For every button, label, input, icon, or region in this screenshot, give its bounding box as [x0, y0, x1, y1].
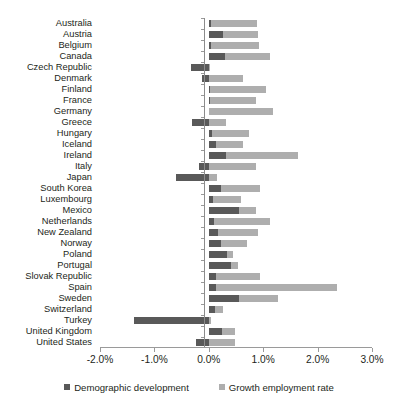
y-axis-tick	[201, 216, 204, 217]
bar-row	[100, 326, 372, 337]
category-label: Switzerland	[0, 304, 96, 315]
bar-segment-demographic	[209, 141, 217, 148]
bar-row	[100, 227, 372, 238]
zero-axis-line	[204, 18, 205, 348]
bar-segment-employment	[209, 108, 273, 115]
bar-segment-employment	[216, 284, 337, 291]
bar-segment-employment	[218, 229, 258, 236]
y-axis-tick	[201, 150, 204, 151]
bar-row	[100, 18, 372, 29]
y-axis-tick	[201, 172, 204, 173]
bar-segment-demographic	[209, 185, 222, 192]
bar-row	[100, 40, 372, 51]
bar-row	[100, 106, 372, 117]
x-axis-tick	[372, 348, 373, 352]
bar-segment-employment	[210, 86, 266, 93]
category-label: Portugal	[0, 260, 96, 271]
bar-segment-demographic	[209, 240, 221, 247]
y-axis-category-labels: AustraliaAustriaBelgiumCanadaCzech Repub…	[0, 18, 96, 348]
y-axis-tick	[201, 227, 204, 228]
category-label: Australia	[0, 18, 96, 29]
x-axis-tick	[100, 348, 101, 352]
bar-row	[100, 84, 372, 95]
y-axis-tick	[201, 73, 204, 74]
x-axis-tick-label: 0.0%	[179, 353, 239, 366]
bar-row	[100, 183, 372, 194]
bar-segment-demographic	[209, 31, 224, 38]
bar-segment-employment	[215, 306, 223, 313]
bar-row	[100, 271, 372, 282]
legend-label: Growth employment rate	[229, 382, 334, 393]
category-label: Germany	[0, 106, 96, 117]
category-label: Slovak Republic	[0, 271, 96, 282]
category-label: Hungary	[0, 128, 96, 139]
bar-segment-employment	[222, 328, 235, 335]
category-label: South Korea	[0, 183, 96, 194]
y-axis-tick	[201, 62, 204, 63]
x-axis-tick-label: -1.0%	[124, 353, 184, 366]
bar-segment-employment	[214, 218, 270, 225]
bar-row	[100, 95, 372, 106]
category-label: Poland	[0, 249, 96, 260]
category-label: Luxembourg	[0, 194, 96, 205]
x-axis-tick-labels: -2.0%-1.0%0.0%1.0%2.0%3.0%	[0, 353, 398, 367]
bar-row	[100, 62, 372, 73]
bar-segment-employment	[216, 141, 242, 148]
y-axis-tick	[201, 282, 204, 283]
bar-segment-demographic	[191, 64, 208, 71]
bar-row	[100, 260, 372, 271]
y-axis-tick	[201, 29, 204, 30]
x-axis-tick	[318, 348, 319, 352]
y-axis-tick	[201, 161, 204, 162]
y-axis-tick	[201, 293, 204, 294]
bar-segment-employment	[221, 240, 247, 247]
y-axis-tick	[201, 183, 204, 184]
stacked-bar-chart: AustraliaAustriaBelgiumCanadaCzech Repub…	[0, 0, 398, 402]
category-label: Italy	[0, 161, 96, 172]
bar-segment-employment	[231, 262, 238, 269]
x-axis-tick	[263, 348, 264, 352]
y-axis-tick	[201, 304, 204, 305]
bar-segment-employment	[209, 339, 235, 346]
bar-segment-employment	[209, 317, 211, 324]
bar-segment-demographic	[209, 284, 217, 291]
category-label: Denmark	[0, 73, 96, 84]
bar-row	[100, 139, 372, 150]
y-axis-tick	[201, 128, 204, 129]
category-label: Iceland	[0, 139, 96, 150]
bar-row	[100, 216, 372, 227]
y-axis-tick	[201, 260, 204, 261]
category-label: United States	[0, 337, 96, 348]
x-axis-tick-label: 2.0%	[288, 353, 348, 366]
bar-segment-demographic	[209, 229, 218, 236]
bar-segment-demographic	[209, 328, 223, 335]
y-axis-tick	[201, 18, 204, 19]
legend-label: Demographic development	[74, 382, 189, 393]
legend-swatch-icon	[64, 384, 70, 390]
plot-area	[100, 18, 372, 348]
y-axis-tick	[201, 194, 204, 195]
y-axis-tick	[201, 326, 204, 327]
bar-row	[100, 249, 372, 260]
bar-segment-employment	[225, 53, 271, 60]
bar-segment-employment	[239, 207, 256, 214]
y-axis-tick	[201, 238, 204, 239]
bar-segment-employment	[209, 174, 217, 181]
y-axis-tick	[201, 205, 204, 206]
bar-segment-employment	[216, 273, 260, 280]
bar-row	[100, 238, 372, 249]
bar-segment-demographic	[196, 339, 209, 346]
bar-segment-employment	[211, 42, 259, 49]
y-axis-tick	[201, 139, 204, 140]
x-axis-tick	[209, 348, 210, 352]
bar-row	[100, 117, 372, 128]
bar-segment-demographic	[209, 251, 227, 258]
bar-row	[100, 205, 372, 216]
bar-segment-employment	[209, 64, 210, 71]
category-label: Spain	[0, 282, 96, 293]
bar-segment-employment	[227, 251, 234, 258]
bar-row	[100, 194, 372, 205]
category-label: Czech Republic	[0, 62, 96, 73]
category-label: Ireland	[0, 150, 96, 161]
bar-row	[100, 282, 372, 293]
